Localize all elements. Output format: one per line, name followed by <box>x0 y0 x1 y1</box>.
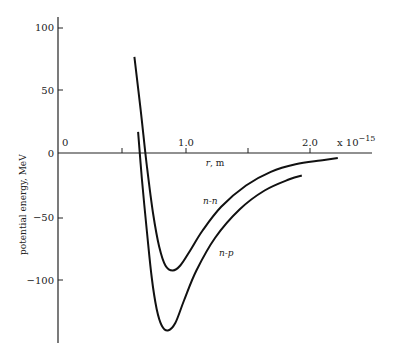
potential-energy-chart: 100 50 0 −50 −100 0 1.0 2.0 x 10−15 r, m… <box>0 0 395 360</box>
curve-label-n-p: n-p <box>219 248 234 258</box>
y-tick-label-0: 0 <box>48 148 54 159</box>
curve-label-n-n: n-n <box>203 196 218 206</box>
x-tick-label-0: 0 <box>62 137 68 148</box>
y-ticks <box>58 28 63 280</box>
y-tick-label-50: 50 <box>41 85 54 96</box>
x-ticks <box>122 148 310 153</box>
x-axis-title: r, m <box>206 158 225 168</box>
x-tick-label-1: 1.0 <box>178 137 194 148</box>
y-tick-label-neg100: −100 <box>27 275 54 286</box>
x-tick-label-2: 2.0 <box>302 137 318 148</box>
y-axis-title: potential energy, MeV <box>18 154 28 255</box>
y-tick-label-100: 100 <box>35 22 54 33</box>
x-multiplier: x 10−15 <box>337 134 375 148</box>
curve-n-n <box>134 57 337 271</box>
y-tick-label-neg50: −50 <box>33 212 54 223</box>
